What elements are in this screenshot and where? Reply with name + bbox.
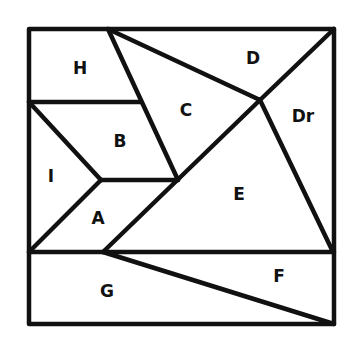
label-d: D	[246, 48, 260, 68]
edge-g-f	[103, 252, 334, 324]
edge-c-e	[103, 100, 260, 252]
puzzle-diagram: H D C Dr B I E A F G	[0, 0, 357, 337]
label-g: G	[100, 281, 114, 301]
label-e: E	[233, 184, 245, 204]
edge-d-dr	[260, 29, 334, 100]
label-f: F	[273, 266, 285, 286]
label-dr: Dr	[292, 106, 315, 126]
label-b: B	[114, 131, 127, 151]
edge-i-a	[29, 180, 101, 252]
label-i: I	[48, 166, 54, 186]
label-a: A	[91, 208, 105, 228]
edge-i-b	[29, 102, 101, 180]
edge-d-c	[108, 29, 260, 100]
label-h: H	[73, 58, 87, 78]
edge-h-c	[108, 29, 178, 180]
label-c: C	[180, 100, 192, 120]
